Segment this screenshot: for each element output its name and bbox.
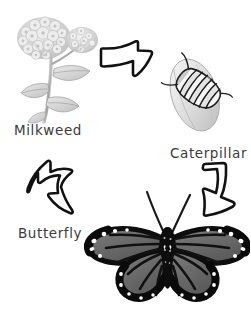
caterpillar-sketch [156,50,234,142]
arrow-caterpillar-to-butterfly-icon [183,160,243,220]
arrow-butterfly-to-milkweed-icon [22,152,84,218]
stage-label-caterpillar: Caterpillar [170,145,247,161]
stage-label-milkweed: Milkweed [14,122,82,138]
stage-label-butterfly: Butterfly [18,225,82,241]
milkweed-plant-sketch [10,12,102,124]
arrow-milkweed-to-caterpillar-icon [97,40,157,90]
butterfly-life-cycle-diagram: Milkweed [0,0,251,322]
